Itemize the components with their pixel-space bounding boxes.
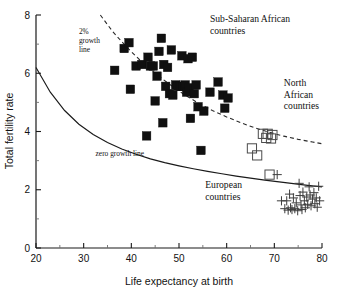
data-point-filled-square	[192, 81, 201, 90]
data-point-filled-square	[190, 89, 199, 98]
data-point-filled-square	[224, 94, 233, 103]
european-label: countries	[205, 191, 240, 202]
x-tick-label: 60	[221, 253, 233, 264]
tick-labels-layer: 2030405060708002468	[24, 10, 328, 265]
y-tick-label: 4	[24, 126, 30, 137]
north-african-label: countries	[284, 100, 319, 111]
data-point-filled-square	[188, 53, 197, 62]
data-point-filled-square	[155, 47, 164, 56]
data-point-filled-square	[110, 66, 119, 75]
zero-growth-label: zero growth line	[96, 149, 145, 158]
x-tick-label: 80	[316, 253, 328, 264]
data-point-filled-square	[197, 146, 206, 155]
x-axis-title: Life expectancy at birth	[125, 275, 233, 287]
chart-canvas: 2030405060708002468 Sub-Saharan Africanc…	[0, 0, 340, 291]
data-point-filled-square	[167, 46, 176, 55]
data-point-filled-square	[199, 107, 208, 116]
north-african-label: African	[284, 89, 313, 100]
data-point-filled-square	[158, 118, 167, 127]
data-point-filled-square	[206, 88, 215, 97]
y-tick-label: 6	[24, 68, 30, 79]
sub-saharan-label: Sub-Saharan African	[210, 13, 290, 24]
data-point-filled-square	[157, 34, 166, 43]
data-point-filled-square	[125, 38, 134, 47]
series-open-square	[247, 129, 277, 179]
data-point-filled-square	[151, 97, 160, 106]
x-tick-label: 30	[78, 253, 90, 264]
data-point-filled-square	[163, 63, 172, 72]
data-point-filled-square	[214, 78, 223, 87]
data-point-filled-square	[220, 104, 229, 113]
y-tick-label: 0	[24, 243, 30, 254]
data-point-filled-square	[153, 72, 162, 81]
north-african-label: North	[284, 77, 307, 88]
data-point-filled-square	[149, 62, 158, 71]
data-point-open-square	[253, 151, 262, 160]
data-point-filled-square	[169, 91, 178, 100]
series-plus	[273, 170, 325, 215]
fertility-life-expectancy-chart: 2030405060708002468 Sub-Saharan Africanc…	[0, 0, 340, 291]
two-percent-growth-label: 2%	[79, 27, 89, 36]
x-tick-label: 50	[173, 253, 185, 264]
data-point-filled-square	[186, 114, 195, 123]
two-percent-growth-label: growth	[79, 36, 100, 45]
x-tick-label: 70	[269, 253, 281, 264]
y-axis-title: Total fertility rate	[3, 93, 15, 170]
two-percent-growth-label: line	[79, 45, 91, 54]
y-tick-label: 8	[24, 10, 30, 21]
data-point-filled-square	[144, 53, 153, 62]
data-point-filled-square	[142, 132, 151, 141]
x-tick-label: 40	[126, 253, 138, 264]
european-label: European	[205, 179, 242, 190]
data-point-filled-square	[126, 85, 135, 94]
sub-saharan-label: countries	[210, 25, 245, 36]
data-point-open-square	[247, 144, 256, 153]
y-tick-label: 2	[24, 184, 30, 195]
series-filled-square	[110, 34, 232, 155]
x-tick-label: 20	[30, 253, 42, 264]
